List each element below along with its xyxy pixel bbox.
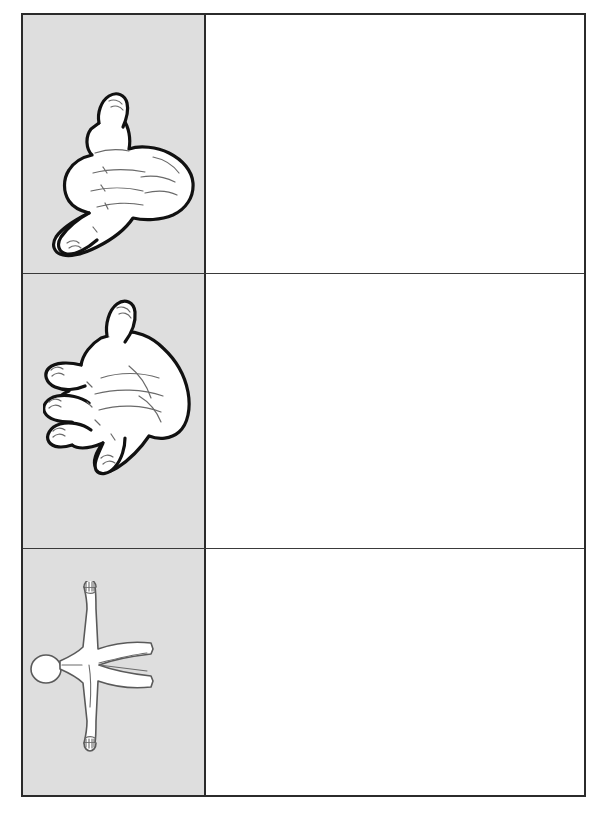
table-row: Fives <box>23 274 584 549</box>
answer-cell-ones[interactable] <box>206 15 584 273</box>
table-row: Ones <box>23 15 584 274</box>
row-label-twenties: Twenties <box>198 557 206 719</box>
row-label-fives: Fives <box>198 282 206 380</box>
answer-cell-fives[interactable] <box>206 274 584 548</box>
row-label-ones: Ones <box>198 25 206 122</box>
answer-cell-twenties[interactable] <box>206 549 584 795</box>
label-cell-fives: Fives <box>23 274 206 548</box>
label-cell-ones: Ones <box>23 15 206 273</box>
whole-body-twenties-icon <box>29 581 159 756</box>
label-cell-twenties: Twenties <box>23 549 206 795</box>
page-caption <box>0 810 602 820</box>
number-handshape-table: Ones <box>21 13 586 797</box>
asl-hand-ones-icon <box>45 87 195 267</box>
worksheet-page: Ones <box>0 0 602 820</box>
table-row: Twenties <box>23 549 584 795</box>
asl-hand-fives-icon <box>43 296 193 486</box>
